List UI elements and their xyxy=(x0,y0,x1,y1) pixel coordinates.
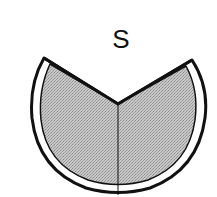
notched-sector-diagram xyxy=(0,0,217,197)
